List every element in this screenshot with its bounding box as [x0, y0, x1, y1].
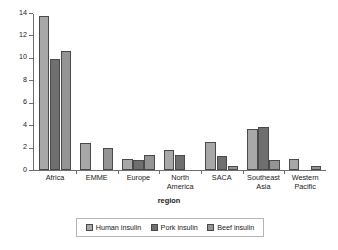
chart-legend: Human insulinPork insulinBeef insulin	[76, 218, 264, 237]
legend-swatch-pork-icon	[151, 224, 158, 231]
bar-group	[164, 14, 197, 170]
bar-human	[39, 16, 50, 170]
x-category-label: WesternPacific	[284, 174, 326, 191]
bar-group	[80, 14, 113, 170]
x-category-label: Europe	[118, 174, 160, 183]
bar-pork	[258, 127, 269, 170]
x-category-label: SoutheastAsia	[243, 174, 285, 191]
plot-area: 02468101214	[33, 14, 326, 171]
bar-human	[80, 143, 91, 169]
y-tick-14: 14	[29, 13, 33, 14]
y-tick-10: 10	[29, 58, 33, 59]
bar-human	[164, 150, 175, 170]
legend-label: Human insulin	[96, 223, 142, 232]
y-tick-label: 6	[23, 97, 27, 106]
y-tick-label: 4	[23, 120, 27, 129]
y-tick-6: 6	[29, 103, 33, 104]
y-tick-label: 14	[19, 8, 27, 17]
bar-pork	[50, 59, 61, 170]
x-axis-line	[33, 170, 326, 171]
bar-human	[247, 129, 258, 170]
bar-group	[247, 14, 280, 170]
bar-group	[122, 14, 155, 170]
y-tick-label: 12	[19, 30, 27, 39]
bar-human	[205, 142, 216, 169]
bar-pork	[217, 156, 228, 170]
legend-label: Pork insulin	[161, 223, 198, 232]
bar-beef	[61, 51, 72, 170]
legend-swatch-beef-icon	[207, 224, 214, 231]
legend-item-pork[interactable]: Pork insulin	[151, 223, 198, 232]
y-tick-label: 0	[23, 165, 27, 174]
bar-beef	[144, 155, 155, 170]
bar-beef	[228, 166, 239, 170]
y-tick-12: 12	[29, 35, 33, 36]
bar-group	[205, 14, 238, 170]
y-tick-0: 0	[29, 170, 33, 171]
y-tick-label: 2	[23, 142, 27, 151]
x-category-label: Africa	[34, 174, 76, 183]
legend-label: Beef insulin	[217, 223, 254, 232]
y-tick-label: 10	[19, 52, 27, 61]
bar-group	[39, 14, 72, 170]
bars-layer	[34, 14, 326, 170]
insulin-cost-bar-chart: cost of insulin (US $) 02468101214 Afric…	[0, 0, 338, 250]
bar-group	[289, 14, 322, 170]
bar-beef	[103, 148, 114, 170]
legend-item-human[interactable]: Human insulin	[86, 223, 142, 232]
bar-beef	[311, 166, 322, 169]
x-axis-title: region	[0, 196, 338, 205]
legend-item-beef[interactable]: Beef insulin	[207, 223, 254, 232]
legend-swatch-human-icon	[86, 224, 93, 231]
y-tick-8: 8	[29, 80, 33, 81]
bar-pork	[133, 160, 144, 170]
y-tick-2: 2	[29, 148, 33, 149]
y-tick-label: 8	[23, 75, 27, 84]
bar-human	[289, 159, 300, 170]
bar-human	[122, 159, 133, 170]
bar-pork	[175, 155, 186, 170]
x-category-label: NorthAmerica	[159, 174, 201, 191]
x-category-label: SACA	[201, 174, 243, 183]
y-tick-4: 4	[29, 125, 33, 126]
bar-beef	[269, 160, 280, 170]
x-category-label: EMME	[76, 174, 118, 183]
